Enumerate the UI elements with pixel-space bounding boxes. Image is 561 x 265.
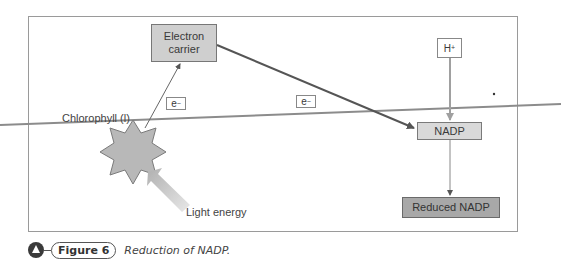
electron-carrier-line1: Electron (164, 30, 204, 43)
caption-connector (44, 250, 51, 251)
caption-text: Reduction of NADP. (124, 244, 230, 257)
electron-label-box-2: e− (296, 95, 316, 108)
figure-number-badge: Figure 6 (51, 242, 116, 259)
nadp-label: NADP (434, 125, 465, 138)
figure-caption: Figure 6 Reduction of NADP. (28, 241, 230, 259)
electron-label-box-1: e− (166, 97, 186, 110)
electron-carrier-line2: carrier (164, 43, 204, 56)
reduced-nadp-label: Reduced NADP (412, 201, 490, 214)
electron-symbol: e (171, 97, 177, 110)
hydrogen-ion-box: H+ (437, 38, 462, 58)
figure-triangle-icon (28, 242, 44, 258)
reduced-nadp-box: Reduced NADP (402, 197, 500, 218)
light-energy-label: Light energy (186, 206, 247, 218)
electron-symbol: e (301, 95, 307, 108)
nadp-box: NADP (417, 122, 482, 140)
light-energy-arrow-icon (147, 168, 190, 212)
hydrogen-symbol: H (444, 42, 451, 55)
chlorophyll-label: Chlorophyll (l) (62, 112, 130, 124)
speck-dot (493, 93, 495, 95)
electron-carrier-box: Electron carrier (151, 24, 217, 62)
